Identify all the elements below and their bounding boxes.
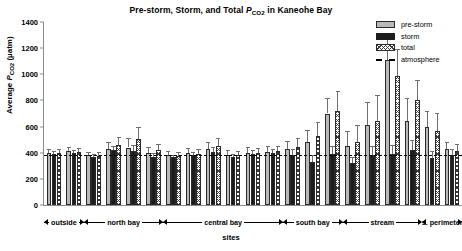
error-bar-cap [405, 98, 409, 99]
x-group-label: south bay [294, 218, 332, 227]
error-bar [457, 144, 458, 151]
site-group [243, 22, 263, 205]
legend-label-total: total [401, 43, 415, 52]
error-bar-cap [430, 151, 434, 152]
bar-pre-storm [246, 153, 251, 205]
error-bar-cap [106, 142, 110, 143]
bar-pre-storm [166, 155, 171, 205]
site-group [64, 22, 84, 205]
error-bar [138, 127, 139, 139]
error-bar-cap [355, 125, 359, 126]
error-bar-cap [390, 145, 394, 146]
bar-storm [430, 158, 435, 205]
bar-total [176, 156, 181, 205]
error-bar-cap [191, 152, 195, 153]
x-group-north-bay: north bay [84, 216, 164, 228]
bar-storm [52, 154, 57, 205]
bar-pre-storm [66, 151, 71, 205]
bar-total [375, 121, 380, 205]
error-bar-cap [111, 146, 115, 147]
site-group [223, 22, 243, 205]
bar-total [156, 150, 161, 205]
error-bar [412, 140, 413, 150]
bar-storm [310, 162, 315, 205]
bar-total [236, 155, 241, 205]
bar-storm [91, 157, 96, 205]
error-bar [108, 142, 109, 149]
bar-storm [72, 153, 77, 205]
error-bar [128, 138, 129, 147]
chart-title-post: in Kaneohe Bay [265, 5, 333, 15]
x-group-arrow-left-icon [44, 219, 48, 225]
error-bar-cap [236, 151, 240, 152]
y-axis-label: Average PCO2 (µatm) [5, 44, 15, 184]
error-bar [332, 146, 333, 154]
error-bar-cap [176, 152, 180, 153]
bar-storm [370, 155, 375, 205]
error-bar-cap [97, 152, 101, 153]
y-axis-label-italic: P [5, 75, 14, 80]
error-bar-cap [151, 153, 155, 154]
bar-total [435, 131, 440, 205]
x-group-central-bay: central bay [163, 216, 282, 228]
error-bar-cap [166, 151, 170, 152]
bar-pre-storm [226, 155, 231, 205]
bar-total [395, 76, 400, 205]
x-group-stream: stream [343, 216, 423, 228]
bar-storm [450, 155, 455, 205]
error-bar [118, 137, 119, 145]
legend-item-storm: storm [376, 31, 462, 43]
bar-storm [211, 152, 216, 205]
bar-pre-storm [445, 149, 450, 205]
bar-pre-storm [86, 155, 91, 205]
bar-pre-storm [206, 149, 211, 205]
error-bar [347, 131, 348, 145]
bar-pre-storm [385, 60, 390, 205]
error-bar-cap [47, 149, 51, 150]
bar-storm [271, 153, 276, 205]
error-bar-cap [291, 149, 295, 150]
chart-title: Pre-storm, Storm, and Total PCO2 in Kane… [0, 5, 462, 16]
chart-container: Pre-storm, Storm, and Total PCO2 in Kane… [0, 0, 462, 251]
x-group-outside: outside [44, 216, 84, 228]
error-bar-cap [345, 131, 349, 132]
site-group [183, 22, 203, 205]
bar-storm [330, 154, 335, 205]
error-bar-cap [146, 147, 150, 148]
y-axis-label-pre: Average [5, 80, 14, 114]
error-bar [307, 130, 308, 142]
x-group-label: outside [49, 218, 79, 227]
error-bar-cap [276, 146, 280, 147]
x-group-arrow-left-icon [422, 219, 426, 225]
site-group [263, 22, 283, 205]
bar-storm [290, 155, 295, 205]
chart-title-pre: Pre-storm, Storm, and Total [130, 5, 246, 15]
bar-total [355, 142, 360, 205]
x-group-arrow-left-icon [84, 219, 88, 225]
bar-total [316, 136, 321, 205]
site-group [124, 22, 144, 205]
error-bar-cap [296, 138, 300, 139]
legend-label-atmosphere: atmosphere [401, 55, 440, 64]
site-group [44, 22, 64, 205]
y-axis-label-post: (µatm) [5, 36, 14, 62]
error-bar-cap [350, 157, 354, 158]
error-bar [367, 102, 368, 126]
bar-pre-storm [265, 152, 270, 205]
x-group-arrow-left-icon [343, 219, 347, 225]
error-bar-cap [117, 137, 121, 138]
error-bar-cap [375, 95, 379, 96]
bar-pre-storm [106, 149, 111, 205]
bar-storm [171, 157, 176, 205]
x-group-south-bay: south bay [283, 216, 343, 228]
error-bar-cap [156, 144, 160, 145]
legend-swatch-storm [376, 33, 395, 40]
legend: pre-storm storm total atmosphere [376, 19, 462, 65]
bar-pre-storm [47, 153, 52, 205]
site-group [163, 22, 183, 205]
bar-total [415, 100, 420, 205]
bar-storm [251, 154, 256, 205]
error-bar [407, 98, 408, 122]
bar-pre-storm [405, 121, 410, 205]
legend-item-atmosphere: atmosphere [376, 54, 462, 66]
